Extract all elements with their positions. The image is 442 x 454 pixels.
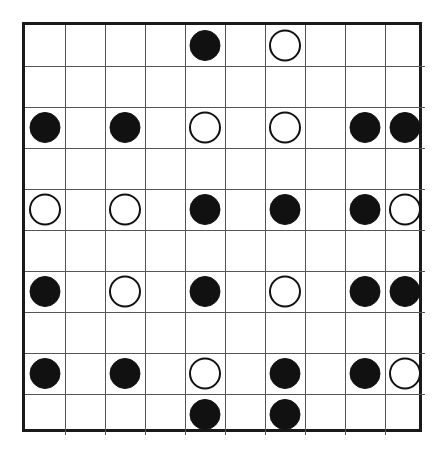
black-circle-icon[interactable] — [270, 400, 300, 430]
grid-cell-r8c5[interactable] — [185, 312, 225, 353]
grid-cell-r3c8[interactable] — [305, 107, 345, 148]
grid-cell-r4c4[interactable] — [145, 148, 185, 189]
grid-cell-r10c6[interactable] — [225, 394, 265, 435]
grid-cell-r3c4[interactable] — [145, 107, 185, 148]
grid-cell-r6c4[interactable] — [145, 230, 185, 271]
grid-cell-r2c8[interactable] — [305, 66, 345, 107]
grid-cell-r7c8[interactable] — [305, 271, 345, 312]
grid-cell-r2c10[interactable] — [385, 66, 425, 107]
grid-cell-r3c6[interactable] — [225, 107, 265, 148]
white-circle-icon[interactable] — [110, 277, 140, 307]
white-circle-icon[interactable] — [110, 195, 140, 225]
black-circle-icon[interactable] — [190, 400, 220, 430]
grid-cell-r3c2[interactable] — [65, 107, 105, 148]
grid-cell-r10c9[interactable] — [345, 394, 385, 435]
grid-cell-r6c5[interactable] — [185, 230, 225, 271]
grid-cell-r5c6[interactable] — [225, 189, 265, 230]
grid-cell-r1c6[interactable] — [225, 25, 265, 66]
white-circle-icon[interactable] — [390, 359, 420, 389]
grid-cell-r2c7[interactable] — [265, 66, 305, 107]
black-circle-icon[interactable] — [350, 195, 380, 225]
grid-cell-r10c8[interactable] — [305, 394, 345, 435]
black-circle-icon[interactable] — [190, 31, 220, 61]
grid-cell-r10c4[interactable] — [145, 394, 185, 435]
grid-cell-r4c2[interactable] — [65, 148, 105, 189]
grid-cell-r4c9[interactable] — [345, 148, 385, 189]
grid-cell-r10c2[interactable] — [65, 394, 105, 435]
grid-cell-r4c10[interactable] — [385, 148, 425, 189]
black-circle-icon[interactable] — [110, 113, 140, 143]
grid-cell-r5c8[interactable] — [305, 189, 345, 230]
grid-cell-r6c3[interactable] — [105, 230, 145, 271]
grid-cell-r6c10[interactable] — [385, 230, 425, 271]
white-circle-icon[interactable] — [190, 359, 220, 389]
white-circle-icon[interactable] — [190, 113, 220, 143]
grid-cell-r6c9[interactable] — [345, 230, 385, 271]
white-circle-icon[interactable] — [270, 113, 300, 143]
black-circle-icon[interactable] — [110, 359, 140, 389]
grid-cell-r4c7[interactable] — [265, 148, 305, 189]
black-circle-icon[interactable] — [350, 359, 380, 389]
grid-cell-r1c1[interactable] — [25, 25, 65, 66]
grid-cell-r9c4[interactable] — [145, 353, 185, 394]
grid-cell-r2c1[interactable] — [25, 66, 65, 107]
grid-cell-r4c6[interactable] — [225, 148, 265, 189]
grid-cell-r7c2[interactable] — [65, 271, 105, 312]
grid-cell-r8c2[interactable] — [65, 312, 105, 353]
grid-cell-r1c8[interactable] — [305, 25, 345, 66]
grid-cell-r8c4[interactable] — [145, 312, 185, 353]
grid-cell-r6c6[interactable] — [225, 230, 265, 271]
grid-cell-r7c4[interactable] — [145, 271, 185, 312]
black-circle-icon[interactable] — [30, 359, 60, 389]
white-circle-icon[interactable] — [30, 195, 60, 225]
grid-cell-r8c1[interactable] — [25, 312, 65, 353]
grid-cell-r4c8[interactable] — [305, 148, 345, 189]
black-circle-icon[interactable] — [190, 277, 220, 307]
grid-cell-r2c3[interactable] — [105, 66, 145, 107]
grid-cell-r2c6[interactable] — [225, 66, 265, 107]
grid-cell-r10c3[interactable] — [105, 394, 145, 435]
grid-cell-r1c3[interactable] — [105, 25, 145, 66]
grid-cell-r1c9[interactable] — [345, 25, 385, 66]
grid-cell-r1c10[interactable] — [385, 25, 425, 66]
black-circle-icon[interactable] — [30, 113, 60, 143]
grid-cell-r1c2[interactable] — [65, 25, 105, 66]
black-circle-icon[interactable] — [270, 359, 300, 389]
grid-cell-r4c3[interactable] — [105, 148, 145, 189]
grid-cell-r9c2[interactable] — [65, 353, 105, 394]
grid-cell-r6c2[interactable] — [65, 230, 105, 271]
grid-cell-r5c2[interactable] — [65, 189, 105, 230]
black-circle-icon[interactable] — [350, 277, 380, 307]
black-circle-icon[interactable] — [30, 277, 60, 307]
grid-cell-r1c4[interactable] — [145, 25, 185, 66]
grid-cell-r8c10[interactable] — [385, 312, 425, 353]
grid-cell-r6c7[interactable] — [265, 230, 305, 271]
grid-cell-r8c6[interactable] — [225, 312, 265, 353]
grid-cell-r8c7[interactable] — [265, 312, 305, 353]
grid-cell-r7c6[interactable] — [225, 271, 265, 312]
grid-cell-r2c5[interactable] — [185, 66, 225, 107]
puzzle-grid-board[interactable] — [22, 22, 422, 432]
grid-cell-r8c3[interactable] — [105, 312, 145, 353]
grid-cell-r5c4[interactable] — [145, 189, 185, 230]
black-circle-icon[interactable] — [350, 113, 380, 143]
grid-cell-r9c6[interactable] — [225, 353, 265, 394]
grid-cell-r10c1[interactable] — [25, 394, 65, 435]
grid-cell-r8c9[interactable] — [345, 312, 385, 353]
black-circle-icon[interactable] — [190, 195, 220, 225]
grid-cell-r2c4[interactable] — [145, 66, 185, 107]
grid-cell-r4c5[interactable] — [185, 148, 225, 189]
black-circle-icon[interactable] — [270, 195, 300, 225]
grid-cell-r9c8[interactable] — [305, 353, 345, 394]
grid-cell-r6c8[interactable] — [305, 230, 345, 271]
grid-cell-r2c9[interactable] — [345, 66, 385, 107]
white-circle-icon[interactable] — [270, 31, 300, 61]
grid-cell-r2c2[interactable] — [65, 66, 105, 107]
puzzle-grid-svg[interactable] — [25, 25, 425, 435]
black-circle-icon[interactable] — [390, 113, 420, 143]
black-circle-icon[interactable] — [390, 277, 420, 307]
grid-cell-r6c1[interactable] — [25, 230, 65, 271]
grid-cell-r4c1[interactable] — [25, 148, 65, 189]
grid-cell-r10c10[interactable] — [385, 394, 425, 435]
white-circle-icon[interactable] — [270, 277, 300, 307]
